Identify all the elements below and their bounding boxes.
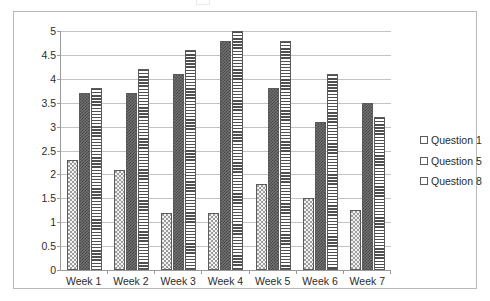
y-tick-label: 4.5 xyxy=(41,50,56,61)
y-tick-label: 1.5 xyxy=(41,193,56,204)
y-tick-label: 0 xyxy=(50,265,56,276)
plot-area: 54.543.532.521.510.50 xyxy=(60,31,391,271)
bar-group xyxy=(297,31,344,270)
legend-swatch-icon xyxy=(420,136,428,144)
bar[interactable] xyxy=(185,50,196,270)
bar[interactable] xyxy=(114,170,125,270)
bar[interactable] xyxy=(303,198,314,270)
x-tick-mark xyxy=(154,270,155,274)
y-tick-label: 3.5 xyxy=(41,97,56,108)
y-tick-label: 5 xyxy=(50,26,56,37)
bar[interactable] xyxy=(268,88,279,270)
x-tick-label: Week 3 xyxy=(155,275,202,287)
x-tick-mark xyxy=(390,270,391,274)
y-tick-label: 4 xyxy=(50,74,56,85)
x-tick-mark xyxy=(296,270,297,274)
legend-swatch-icon xyxy=(420,177,428,185)
bar[interactable] xyxy=(232,31,243,270)
bar[interactable] xyxy=(126,93,137,270)
chart-legend: Question 1Question 5Question 8 xyxy=(420,135,482,187)
bar[interactable] xyxy=(79,93,90,270)
bar-group xyxy=(155,31,202,270)
y-tick-label: 2 xyxy=(50,169,56,180)
bar-groups xyxy=(61,31,391,270)
bar[interactable] xyxy=(315,122,326,270)
chart-frame: 54.543.532.521.510.50 Week 1Week 2Week 3… xyxy=(13,11,477,289)
legend-label: Question 8 xyxy=(431,176,482,187)
y-tick-mark xyxy=(57,270,61,271)
bar[interactable] xyxy=(67,160,78,270)
bar[interactable] xyxy=(256,184,267,270)
bar[interactable] xyxy=(220,41,231,270)
bar[interactable] xyxy=(208,213,219,270)
bar[interactable] xyxy=(327,74,338,270)
x-tick-mark xyxy=(107,270,108,274)
legend-label: Question 5 xyxy=(431,156,482,167)
x-tick-mark xyxy=(201,270,202,274)
bar-group xyxy=(344,31,391,270)
x-tick-label: Week 1 xyxy=(60,275,107,287)
x-tick-label: Week 5 xyxy=(249,275,296,287)
bar[interactable] xyxy=(91,88,102,270)
y-tick-label: 2.5 xyxy=(41,145,56,156)
bar[interactable] xyxy=(161,213,172,270)
bar[interactable] xyxy=(362,103,373,270)
bar-group xyxy=(108,31,155,270)
x-tick-label: Week 6 xyxy=(296,275,343,287)
legend-label: Question 1 xyxy=(431,135,482,146)
x-tick-label: Week 4 xyxy=(202,275,249,287)
bar[interactable] xyxy=(280,41,291,270)
legend-item[interactable]: Question 8 xyxy=(420,176,482,187)
bar-group xyxy=(61,31,108,270)
bar[interactable] xyxy=(138,69,149,270)
x-tick-label: Week 7 xyxy=(344,275,391,287)
bar[interactable] xyxy=(350,210,361,270)
legend-item[interactable]: Question 5 xyxy=(420,156,482,167)
legend-swatch-icon xyxy=(420,157,428,165)
bar-group xyxy=(202,31,249,270)
bar-group xyxy=(250,31,297,270)
x-tick-label: Week 2 xyxy=(107,275,154,287)
y-tick-label: 0.5 xyxy=(41,241,56,252)
bar[interactable] xyxy=(374,117,385,270)
x-axis-labels: Week 1Week 2Week 3Week 4Week 5Week 6Week… xyxy=(60,275,391,287)
cropped-chart-artifact xyxy=(196,0,210,5)
legend-item[interactable]: Question 1 xyxy=(420,135,482,146)
x-tick-mark xyxy=(343,270,344,274)
y-tick-label: 3 xyxy=(50,121,56,132)
y-tick-label: 1 xyxy=(50,217,56,228)
x-tick-mark xyxy=(249,270,250,274)
bar[interactable] xyxy=(173,74,184,270)
